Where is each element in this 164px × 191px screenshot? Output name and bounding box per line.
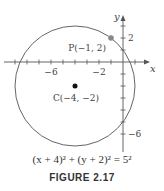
center-c-marker	[73, 84, 78, 89]
center-c-label: C(−4, −2)	[53, 93, 99, 103]
x-tick-label-neg2: −2	[92, 67, 105, 77]
x-axis-label: x	[150, 63, 156, 74]
point-p-label: P(−1, 2)	[68, 43, 106, 53]
y-tick-label-neg6: −6	[128, 129, 142, 139]
y-axis-label: y	[113, 11, 120, 22]
y-tick-label-2: 2	[128, 33, 134, 43]
circle-equation: (x + 4)² + (y + 2)² = 5²	[0, 153, 164, 165]
point-p-marker	[108, 35, 114, 41]
y-axis-arrow-icon	[121, 15, 126, 21]
figure-caption: FIGURE 2.17	[0, 172, 164, 183]
x-tick-label-neg6: −6	[44, 67, 58, 77]
